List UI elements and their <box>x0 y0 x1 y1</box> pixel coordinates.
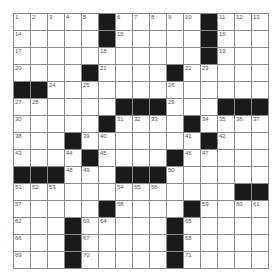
grid-cell[interactable] <box>99 82 116 99</box>
grid-cell[interactable]: 48 <box>65 167 82 184</box>
grid-cell[interactable]: 8 <box>150 14 167 31</box>
grid-cell[interactable] <box>150 218 167 235</box>
grid-cell[interactable]: 31 <box>116 116 133 133</box>
grid-cell[interactable]: 43 <box>14 150 31 167</box>
grid-cell[interactable]: 11 <box>218 14 235 31</box>
grid-cell[interactable]: 13 <box>252 14 269 31</box>
grid-cell[interactable]: 50 <box>167 167 184 184</box>
grid-cell[interactable] <box>184 184 201 201</box>
grid-cell[interactable] <box>31 65 48 82</box>
grid-cell[interactable] <box>82 116 99 133</box>
grid-cell[interactable] <box>133 252 150 269</box>
grid-cell[interactable] <box>65 31 82 48</box>
grid-cell[interactable] <box>252 65 269 82</box>
grid-cell[interactable]: 42 <box>218 133 235 150</box>
grid-cell[interactable] <box>116 133 133 150</box>
grid-cell[interactable] <box>150 31 167 48</box>
grid-cell[interactable]: 16 <box>218 31 235 48</box>
grid-cell[interactable] <box>150 252 167 269</box>
grid-cell[interactable]: 19 <box>218 48 235 65</box>
grid-cell[interactable] <box>218 252 235 269</box>
grid-cell[interactable]: 53 <box>48 184 65 201</box>
grid-cell[interactable]: 5 <box>82 14 99 31</box>
grid-cell[interactable] <box>167 31 184 48</box>
grid-cell[interactable] <box>218 184 235 201</box>
grid-cell[interactable] <box>133 235 150 252</box>
grid-cell[interactable] <box>133 201 150 218</box>
grid-cell[interactable] <box>116 150 133 167</box>
grid-cell[interactable] <box>48 201 65 218</box>
grid-cell[interactable]: 10 <box>184 14 201 31</box>
grid-cell[interactable] <box>65 65 82 82</box>
grid-cell[interactable] <box>167 184 184 201</box>
grid-cell[interactable] <box>150 201 167 218</box>
grid-cell[interactable] <box>82 201 99 218</box>
grid-cell[interactable] <box>48 65 65 82</box>
grid-cell[interactable] <box>252 252 269 269</box>
grid-cell[interactable] <box>235 133 252 150</box>
grid-cell[interactable] <box>82 184 99 201</box>
grid-cell[interactable]: 64 <box>99 218 116 235</box>
grid-cell[interactable]: 26 <box>167 82 184 99</box>
grid-cell[interactable] <box>235 252 252 269</box>
grid-cell[interactable] <box>116 235 133 252</box>
grid-cell[interactable]: 65 <box>184 218 201 235</box>
grid-cell[interactable] <box>31 150 48 167</box>
grid-cell[interactable] <box>82 31 99 48</box>
grid-cell[interactable]: 17 <box>14 48 31 65</box>
grid-cell[interactable]: 60 <box>235 201 252 218</box>
grid-cell[interactable] <box>48 48 65 65</box>
grid-cell[interactable]: 12 <box>235 14 252 31</box>
grid-cell[interactable] <box>167 48 184 65</box>
grid-cell[interactable]: 34 <box>201 116 218 133</box>
grid-cell[interactable] <box>48 133 65 150</box>
grid-cell[interactable] <box>65 48 82 65</box>
grid-cell[interactable] <box>235 65 252 82</box>
grid-cell[interactable] <box>235 48 252 65</box>
grid-cell[interactable] <box>116 48 133 65</box>
grid-cell[interactable]: 68 <box>184 235 201 252</box>
grid-cell[interactable]: 45 <box>99 150 116 167</box>
grid-cell[interactable]: 58 <box>116 201 133 218</box>
grid-cell[interactable]: 14 <box>14 31 31 48</box>
grid-cell[interactable] <box>252 218 269 235</box>
grid-cell[interactable] <box>184 31 201 48</box>
grid-cell[interactable]: 33 <box>150 116 167 133</box>
grid-cell[interactable]: 22 <box>184 65 201 82</box>
grid-cell[interactable]: 39 <box>82 133 99 150</box>
grid-cell[interactable]: 61 <box>252 201 269 218</box>
grid-cell[interactable] <box>218 82 235 99</box>
grid-cell[interactable]: 32 <box>133 116 150 133</box>
grid-cell[interactable] <box>133 31 150 48</box>
grid-cell[interactable] <box>167 201 184 218</box>
grid-cell[interactable] <box>201 184 218 201</box>
grid-cell[interactable] <box>48 99 65 116</box>
grid-cell[interactable] <box>133 218 150 235</box>
grid-cell[interactable] <box>31 201 48 218</box>
grid-cell[interactable] <box>184 48 201 65</box>
grid-cell[interactable] <box>201 235 218 252</box>
grid-cell[interactable]: 29 <box>167 99 184 116</box>
grid-cell[interactable] <box>201 218 218 235</box>
grid-cell[interactable]: 41 <box>184 133 201 150</box>
grid-cell[interactable] <box>99 167 116 184</box>
grid-cell[interactable]: 35 <box>218 116 235 133</box>
grid-cell[interactable] <box>201 99 218 116</box>
grid-cell[interactable] <box>201 82 218 99</box>
grid-cell[interactable] <box>65 99 82 116</box>
grid-cell[interactable] <box>65 82 82 99</box>
grid-cell[interactable] <box>218 235 235 252</box>
grid-cell[interactable] <box>252 31 269 48</box>
grid-cell[interactable]: 3 <box>48 14 65 31</box>
grid-cell[interactable]: 56 <box>150 184 167 201</box>
grid-cell[interactable] <box>99 184 116 201</box>
grid-cell[interactable] <box>133 65 150 82</box>
grid-cell[interactable]: 23 <box>201 65 218 82</box>
grid-cell[interactable] <box>48 116 65 133</box>
grid-cell[interactable]: 57 <box>14 201 31 218</box>
grid-cell[interactable] <box>167 116 184 133</box>
grid-cell[interactable]: 40 <box>99 133 116 150</box>
grid-cell[interactable] <box>48 150 65 167</box>
grid-cell[interactable] <box>235 31 252 48</box>
grid-cell[interactable] <box>252 48 269 65</box>
